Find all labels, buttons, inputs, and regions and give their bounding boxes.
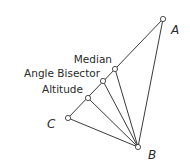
angle-bisector-foot-point	[100, 78, 105, 83]
vertex-a-label: A	[170, 23, 179, 37]
side-ab	[138, 19, 163, 147]
vertex-c-point	[65, 115, 70, 120]
side-bc	[68, 118, 138, 147]
angle-bisector-label: Angle Bisector	[24, 67, 101, 79]
vertex-c-label: C	[47, 117, 56, 131]
median-label: Median	[74, 53, 112, 65]
median-foot-point	[112, 66, 117, 71]
altitude-foot-point	[85, 95, 90, 100]
vertex-b-label: B	[148, 148, 156, 162]
vertex-b-point	[135, 144, 140, 149]
angle-bisector-line	[103, 81, 138, 147]
vertex-a-point	[160, 16, 165, 21]
triangle-diagram: A B C Median Angle Bisector Altitude	[0, 0, 190, 164]
altitude-label: Altitude	[42, 83, 83, 95]
